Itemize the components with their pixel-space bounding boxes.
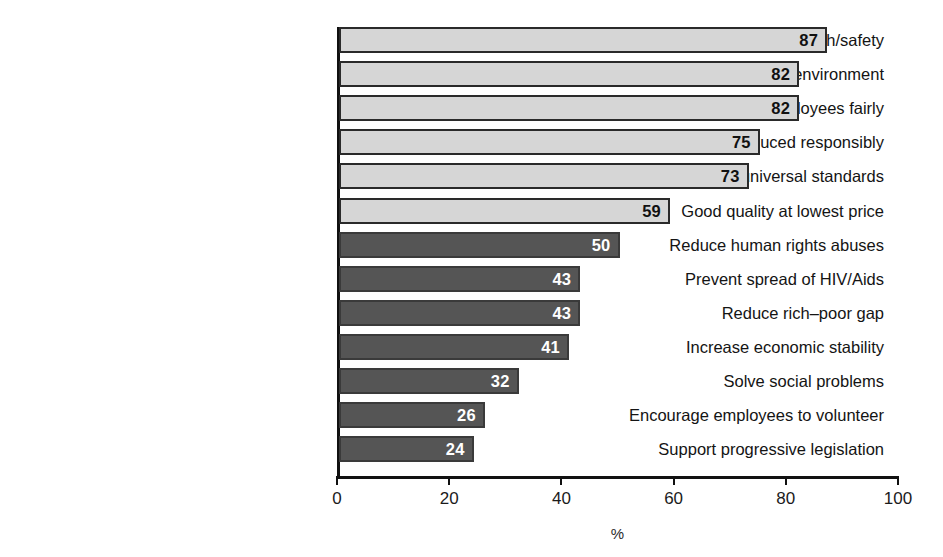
x-tick-0 [336,476,338,485]
category-label: Encourage employees to volunteer [629,402,884,428]
bar-row: Product health/safety87 [337,27,898,53]
x-axis-line [337,476,898,479]
bar-row: Materials produced responsibly75 [337,129,898,155]
x-tick-label-100: 100 [884,489,912,509]
bar-value-label: 24 [446,440,472,459]
bar: 43 [339,300,580,326]
bar: 73 [339,163,749,189]
bar: 75 [339,129,760,155]
bar-value-label: 75 [732,133,758,152]
bar: 43 [339,266,580,292]
bar-row: Prevent spread of HIV/Aids43 [337,266,898,292]
bar: 59 [339,198,670,224]
x-tick-20 [448,476,450,485]
category-label: Support progressive legislation [658,436,884,462]
chart-title-cropped [0,0,943,4]
bar-chart: 020406080100 Product health/safety87Do n… [0,0,943,557]
bar-row: Good quality at lowest price59 [337,198,898,224]
bar-value-label: 73 [721,167,747,186]
x-tick-label-80: 80 [776,489,795,509]
x-tick-80 [785,476,787,485]
bar: 50 [339,232,620,258]
bar-value-label: 50 [592,236,618,255]
category-label: Good quality at lowest price [681,198,884,224]
bar: 41 [339,334,569,360]
x-tick-label-0: 0 [332,489,341,509]
bar: 32 [339,368,519,394]
category-label: Increase economic stability [686,334,884,360]
bar-row: Reduce human rights abuses50 [337,232,898,258]
bar: 26 [339,402,485,428]
bar-value-label: 59 [642,202,668,221]
bar-row: Do not harm the environment82 [337,61,898,87]
x-axis-title: % [611,525,624,542]
category-label: Prevent spread of HIV/Aids [685,266,884,292]
category-label: Solve social problems [724,368,885,394]
bar-value-label: 43 [552,304,578,323]
x-tick-100 [897,476,899,485]
bar-value-label: 32 [491,372,517,391]
bar-value-label: 43 [552,270,578,289]
bar: 87 [339,27,827,53]
x-tick-60 [673,476,675,485]
bar-row: Increase economic stability41 [337,334,898,360]
bar-row: Solve social problems32 [337,368,898,394]
plot-area: 020406080100 Product health/safety87Do n… [337,27,898,476]
category-label: Reduce human rights abuses [669,232,884,258]
bar-value-label: 26 [457,406,483,425]
bar-value-label: 41 [541,338,567,357]
bar: 82 [339,61,799,87]
x-tick-label-20: 20 [440,489,459,509]
category-label: Reduce rich–poor gap [722,300,884,326]
bar-value-label: 87 [799,31,825,50]
bar: 82 [339,95,799,121]
bar-row: Reduce rich–poor gap43 [337,300,898,326]
bar-value-label: 82 [771,65,797,84]
x-tick-40 [560,476,562,485]
bar-value-label: 82 [771,99,797,118]
x-tick-label-40: 40 [552,489,571,509]
bar-row: Support progressive legislation24 [337,436,898,462]
bar-row: Treat employees fairly82 [337,95,898,121]
bar: 24 [339,436,474,462]
bar-row: High universal standards73 [337,163,898,189]
bar-row: Encourage employees to volunteer26 [337,402,898,428]
x-tick-label-60: 60 [664,489,683,509]
